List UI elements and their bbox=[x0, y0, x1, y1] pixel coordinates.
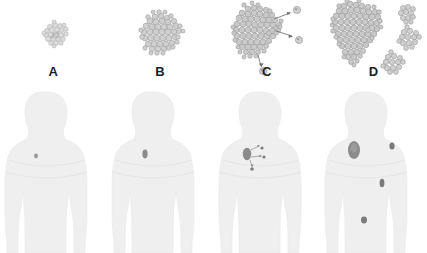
tumor-art-c bbox=[214, 0, 321, 72]
diagram-canvas: A bbox=[0, 0, 427, 253]
body-art-b bbox=[107, 88, 214, 253]
panel-a: A bbox=[0, 0, 107, 253]
body-silhouette-a bbox=[5, 92, 87, 253]
stage-label-d: D bbox=[320, 64, 427, 79]
tumor-art-b bbox=[107, 0, 214, 72]
panel-c: C bbox=[214, 0, 321, 253]
primary-tumor-cluster-c bbox=[230, 1, 282, 59]
stage-label-c: C bbox=[214, 64, 321, 79]
tumor-art-d bbox=[320, 0, 427, 72]
metastatic-colony-2 bbox=[397, 25, 422, 51]
body-tumor-markers-a bbox=[34, 154, 38, 159]
panel-d: D bbox=[320, 0, 427, 253]
body-art-c bbox=[214, 88, 321, 253]
metastatic-colony-1 bbox=[399, 4, 416, 24]
body-silhouette-b bbox=[112, 92, 194, 253]
body-silhouette-d bbox=[325, 92, 407, 253]
panel-b: B bbox=[107, 0, 214, 253]
body-tumor-markers-b bbox=[142, 150, 147, 159]
body-art-a bbox=[0, 88, 107, 253]
body-silhouette-c bbox=[219, 92, 301, 253]
tumor-art-a bbox=[0, 0, 107, 72]
body-art-d bbox=[320, 88, 427, 253]
escaping-cell-2 bbox=[295, 36, 302, 43]
primary-tumor-cluster-b bbox=[139, 10, 185, 56]
primary-tumor-cluster-d bbox=[330, 0, 383, 67]
stage-label-b: B bbox=[107, 64, 214, 79]
escaping-cell-1 bbox=[293, 6, 300, 13]
stage-label-a: A bbox=[0, 64, 107, 79]
